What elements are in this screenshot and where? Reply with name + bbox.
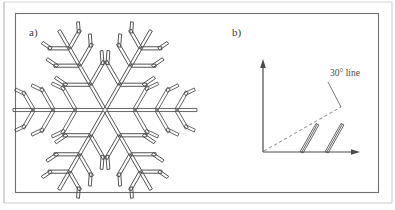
snowflake-center-hub xyxy=(103,108,106,111)
figure-svg: a) xyxy=(0,0,395,210)
figure-root: a) xyxy=(0,0,395,210)
figure-background xyxy=(0,0,395,210)
panel-a-caption: a) xyxy=(29,26,38,39)
panel-b-caption: b) xyxy=(232,26,242,39)
thirty-degree-line-label: 30° line xyxy=(330,68,360,78)
